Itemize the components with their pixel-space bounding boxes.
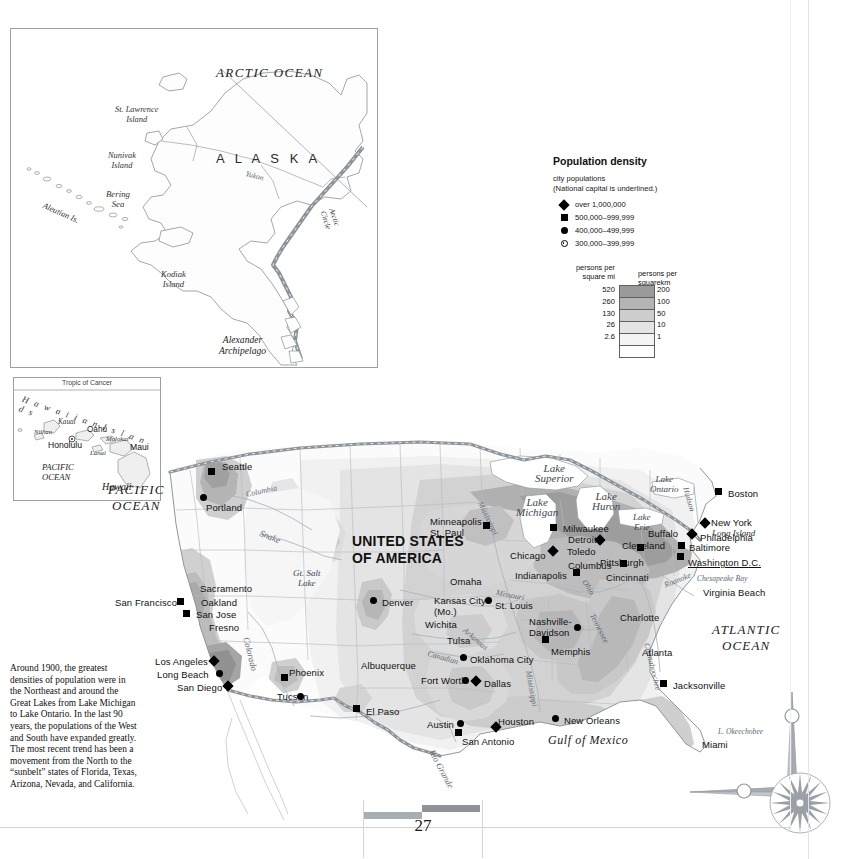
pacific-ocean-label-main: PACIFICOCEAN [108,482,165,515]
scale-step [620,346,654,357]
city-label-kansas-city: Kansas City(Mo.) [434,596,486,617]
city-label-minneapolis: MinneapolisSt. Paul [430,517,482,538]
legend-title: Population density [553,155,683,167]
city-label-el-paso: El Paso [366,707,399,718]
city-label-nashville: Nashville-Davidson [529,617,572,638]
city-label-cleveland: Cleveland [622,541,665,552]
page-edge-line [808,0,809,859]
city-label-indianapolis: Indianapolis [515,571,567,582]
atlantic-ocean-label-main: ATLANTICOCEAN [712,622,780,655]
city-label-albuquerque: Albuquerque [361,661,416,672]
city-label-wichita: Wichita [425,620,457,631]
city-label-tulsa: Tulsa [447,636,470,647]
scale-step [620,334,654,346]
city-label-virginia-beach: Virginia Beach [703,588,766,599]
alaska-country-label: A L A S K A [216,151,321,166]
square-marker-icon [553,214,575,221]
scale-header-left-line2: square mi [583,272,615,281]
bering-sea-label: BeringSea [106,189,130,209]
legend-class-label: 300,000–399,999 [575,239,634,248]
scale-label-km: 50 [657,309,665,318]
city-marker-long-beach[interactable] [216,670,223,677]
city-label-san-diego: San Diego [177,683,222,694]
city-marker-columbus[interactable] [620,560,627,567]
legend-class-label: 500,000–999,999 [575,213,634,222]
scale-header-left: persons per square mi [553,263,615,282]
city-marker-baltimore[interactable] [678,542,685,549]
city-marker-el-paso[interactable] [353,705,360,712]
alexander-archipelago-label: AlexanderArchipelago [219,334,266,356]
circle-marker-icon [553,227,575,234]
diamond-marker-icon [553,201,575,209]
city-marker-phoenix[interactable] [281,674,288,681]
city-label-washington-dc: Washington D.C. [688,558,761,569]
city-marker-portland[interactable] [200,494,207,501]
scale-label-mi: 260 [553,297,615,306]
city-label-los-angeles: Los Angeles [155,657,208,668]
city-marker-oklahoma-city[interactable] [460,654,467,661]
scale-step [620,322,654,334]
scale-label-mi: 2.6 [553,332,615,341]
lake-michigan-label: LakeMichigan [516,497,558,517]
city-label-dallas: Dallas [484,679,511,690]
legend-class-label: 400,000–499,999 [575,226,634,235]
city-label-memphis: Memphis [551,647,590,658]
city-label-omaha: Omaha [450,577,482,588]
city-marker-austin[interactable] [457,720,464,727]
city-marker-milwaukee[interactable] [550,524,557,531]
city-label-austin: Austin [427,720,454,731]
legend-class-over-1m: over 1,000,000 [553,199,683,210]
city-label-boston: Boston [728,489,758,500]
city-marker-boston[interactable] [715,488,722,495]
main-map-svg [0,400,800,830]
city-label-phoenix: Phoenix [289,668,324,679]
city-marker-seattle[interactable] [208,468,215,475]
city-marker-san-jose[interactable] [183,610,190,617]
chesapeake-bay-label: Chesapeake Bay [697,574,747,583]
main-map-usa: UNITED STATES OF AMERICA PACIFICOCEAN AT… [0,400,800,830]
scale-header-left-line1: persons per [576,263,615,272]
city-label-fort-worth: Fort Worth [421,676,467,687]
city-label-milwaukee: Milwaukee [563,524,609,535]
st-lawrence-island-label: St. LawrenceIsland [115,105,158,125]
alaska-inset-map: ARCTIC OCEAN A L A S K A St. LawrenceIsl… [10,28,378,368]
city-label-san-antonio: San Antonio [462,737,514,748]
page-number: 27 [363,816,483,836]
ring-marker-icon [553,240,575,247]
scale-step [620,310,654,322]
city-label-buffalo: Buffalo [648,529,678,540]
page-edge-line-inner [790,0,791,830]
city-label-tucson: Tucson [277,692,308,703]
scale-label-mi: 130 [553,309,615,318]
city-marker-indianapolis[interactable] [573,569,580,576]
legend-subtitle: city populations (National capital is un… [553,174,683,194]
lake-huron-label: LakeHuron [592,491,620,511]
country-name-line2: OF AMERICA [352,550,442,566]
tropic-of-cancer-label: Tropic of Cancer [14,379,160,386]
arctic-ocean-label: ARCTIC OCEAN [216,65,323,81]
city-marker-denver[interactable] [370,597,377,604]
legend-class-500k: 500,000–999,999 [553,212,683,223]
city-marker-washington-dc[interactable] [677,553,684,560]
gt-salt-lake-label: Gt. SaltLake [293,568,321,588]
legend-class-300k: 300,000–399,999 [553,238,683,249]
city-label-st-louis: St. Louis [495,601,533,612]
scale-label-mi: 520 [553,285,615,294]
city-label-cincinnati: Cincinnati [606,573,649,584]
city-label-baltimore: Baltimore [689,543,730,554]
city-marker-new-orleans[interactable] [552,715,559,722]
scale-label-mi: 26 [553,320,615,329]
city-marker-nashville[interactable] [574,624,581,631]
city-marker-minneapolis[interactable] [483,522,490,529]
scale-label-km: 1 [657,332,661,341]
scale-label-km: 10 [657,320,665,329]
compass-rose-svg [690,690,844,859]
city-label-sacramento: Sacramento [200,584,252,595]
city-marker-san-antonio[interactable] [455,729,462,736]
city-marker-san-francisco[interactable] [177,598,184,605]
city-marker-jacksonville[interactable] [660,680,667,687]
city-marker-kansas-city[interactable] [485,597,492,604]
legend-class-400k: 400,000–499,999 [553,225,683,236]
city-label-new-york: New York [711,518,752,529]
scale-header-right-line1: persons per [638,269,677,278]
